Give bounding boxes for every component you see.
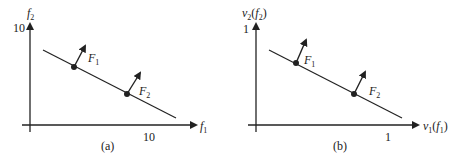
panel-a: f2 f1 10 10 (a) F1 F2 bbox=[13, 6, 207, 153]
trade-off-line bbox=[43, 50, 176, 118]
gradient-arrow-f1 bbox=[74, 46, 85, 67]
panel-caption: (a) bbox=[101, 139, 114, 153]
point-label-f2: F2 bbox=[368, 84, 380, 100]
diagram-canvas: f2 f1 10 10 (a) F1 F2 v2(f2) v1(f1) 1 1 … bbox=[0, 0, 460, 162]
panel-caption: (b) bbox=[333, 139, 347, 153]
gradient-arrow-f2 bbox=[354, 72, 365, 94]
point-label-f1: F1 bbox=[87, 51, 99, 67]
y-axis-label: f2 bbox=[27, 6, 34, 22]
point-label-f2: F2 bbox=[138, 84, 150, 100]
point-label-f1: F1 bbox=[303, 53, 315, 69]
x-axis-label: f1 bbox=[200, 119, 207, 135]
panel-b: v2(f2) v1(f1) 1 1 (b) F1 F2 bbox=[242, 6, 448, 153]
x-tick-label: 1 bbox=[385, 130, 391, 144]
trade-off-line bbox=[269, 50, 402, 118]
x-tick-label: 10 bbox=[143, 130, 155, 144]
x-axis-label: v1(f1) bbox=[423, 119, 448, 135]
y-tick-label: 1 bbox=[243, 22, 249, 36]
y-tick-label: 10 bbox=[13, 21, 25, 35]
y-axis-label: v2(f2) bbox=[242, 6, 267, 22]
